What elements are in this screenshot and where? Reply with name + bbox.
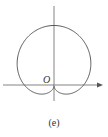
figure-caption: (e) [48,117,59,129]
origin-label: O [43,74,50,85]
cardioid-diagram: O (e) [0,0,108,137]
x-axis-arrow-icon [97,83,103,88]
